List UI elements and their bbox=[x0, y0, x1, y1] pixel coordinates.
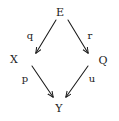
node-label-x: X bbox=[10, 54, 18, 65]
edge-label-u: u bbox=[89, 74, 95, 84]
edge-label-q: q bbox=[27, 31, 33, 41]
edge-label-r: r bbox=[88, 31, 93, 41]
node-label-q: Q bbox=[98, 55, 107, 66]
commutative-diagram: E X Q Y q r p u bbox=[0, 0, 119, 121]
node-label-e: E bbox=[56, 7, 64, 18]
arrow-q-to-y bbox=[66, 66, 88, 97]
arrow-x-to-y bbox=[32, 66, 53, 97]
arrow-e-to-q bbox=[68, 20, 88, 53]
edge-label-p: p bbox=[22, 74, 28, 84]
node-label-y: Y bbox=[55, 103, 62, 114]
arrow-e-to-x bbox=[36, 20, 56, 53]
